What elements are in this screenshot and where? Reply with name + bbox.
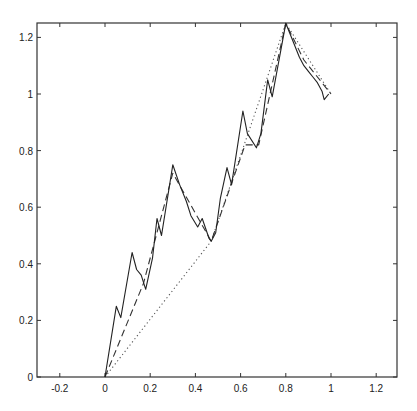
- y-tick-label: 0: [27, 372, 33, 383]
- axes-frame: -0.200.20.40.60.811.200.20.40.60.811.2: [19, 23, 397, 394]
- x-tick-label: 0.8: [279, 383, 293, 394]
- y-tick-label: 0.4: [19, 259, 33, 270]
- y-tick-label: 0.2: [19, 315, 33, 326]
- x-tick-label: 0.4: [188, 383, 202, 394]
- x-tick-label: -0.2: [51, 383, 69, 394]
- x-tick-label: 1: [328, 383, 334, 394]
- y-tick-label: 0.8: [19, 146, 33, 157]
- series-dotted-line: [105, 23, 331, 377]
- x-tick-label: 1.2: [369, 383, 383, 394]
- x-tick-label: 0.6: [234, 383, 248, 394]
- y-tick-label: 1: [27, 89, 33, 100]
- x-tick-label: 0.2: [143, 383, 157, 394]
- chart: -0.200.20.40.60.811.200.20.40.60.811.2: [0, 0, 417, 411]
- plot-border: [37, 23, 397, 377]
- series-solid-line: [105, 23, 329, 377]
- series-layer: [105, 23, 331, 377]
- series-dashed-line: [105, 23, 331, 377]
- y-tick-label: 0.6: [19, 202, 33, 213]
- y-tick-label: 1.2: [19, 32, 33, 43]
- x-tick-label: 0: [102, 383, 108, 394]
